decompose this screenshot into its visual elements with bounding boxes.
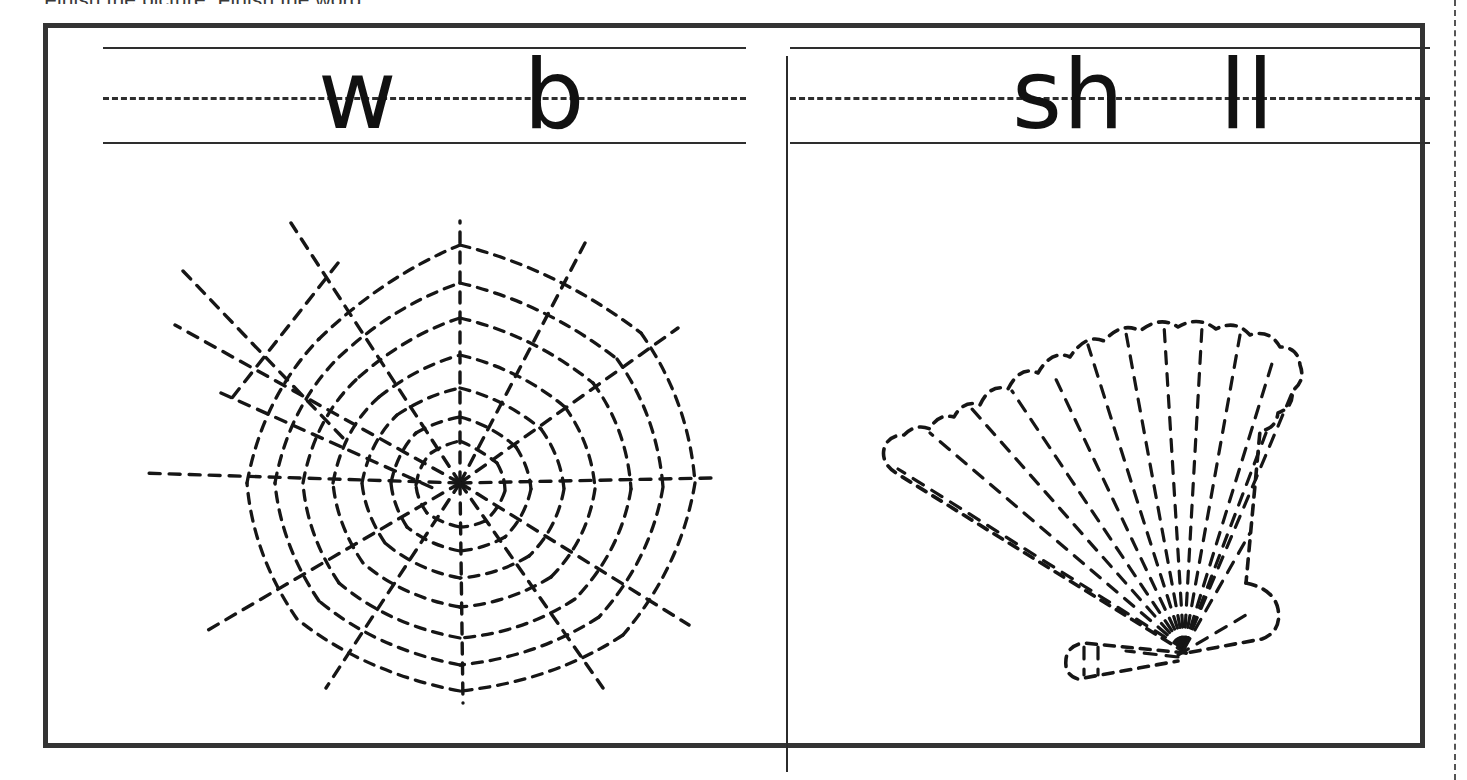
- worksheet-frame: w b: [43, 23, 1425, 748]
- panel-divider: [786, 56, 788, 772]
- scallop-shell-svg: [826, 283, 1306, 703]
- word-prompt-left[interactable]: w b: [318, 43, 586, 143]
- scallop-shell-drawing: [826, 283, 1306, 703]
- spider-web-svg: [133, 233, 708, 678]
- worksheet-page: Finish the picture. Finish the word. w b: [0, 0, 1467, 780]
- word-prompt-left-text: w b: [318, 47, 586, 143]
- handwriting-rules-left: w b: [103, 47, 746, 147]
- spider-web-drawing: [133, 233, 708, 678]
- word-prompt-right-text: sh ll: [1012, 47, 1275, 143]
- cut-line-guide: [1454, 0, 1456, 780]
- instruction-text: Finish the picture. Finish the word.: [44, 0, 744, 4]
- handwriting-rules-right: sh ll: [790, 47, 1430, 147]
- word-prompt-right[interactable]: sh ll: [1012, 43, 1275, 143]
